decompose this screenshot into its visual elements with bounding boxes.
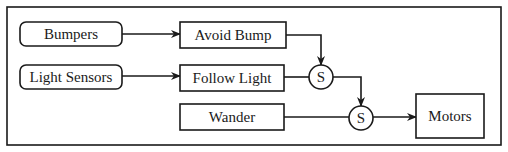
actuator-motors: Motors <box>416 94 484 138</box>
behavior-avoid-bump-label: Avoid Bump <box>195 27 272 43</box>
behavior-wander: Wander <box>180 104 284 130</box>
sensor-light-sensors: Light Sensors <box>20 65 122 89</box>
behavior-follow-light: Follow Light <box>180 65 284 91</box>
suppressor-s2-label: S <box>357 110 365 126</box>
sensor-bumpers: Bumpers <box>20 22 122 46</box>
suppressor-s1: S <box>309 65 333 89</box>
behavior-follow-light-label: Follow Light <box>193 70 273 86</box>
behavior-avoid-bump: Avoid Bump <box>180 22 286 48</box>
edge-s1-s2 <box>333 77 361 106</box>
suppressor-s1-label: S <box>317 69 325 85</box>
suppressor-s2: S <box>349 106 373 130</box>
sensor-bumpers-label: Bumpers <box>44 26 98 42</box>
behavior-wander-label: Wander <box>209 109 255 125</box>
diagram-canvas: Bumpers Light Sensors Avoid Bump Follow … <box>0 0 508 152</box>
actuator-motors-label: Motors <box>428 108 472 124</box>
sensor-light-sensors-label: Light Sensors <box>30 69 113 85</box>
edge-avoid-bump-s1 <box>286 35 321 65</box>
